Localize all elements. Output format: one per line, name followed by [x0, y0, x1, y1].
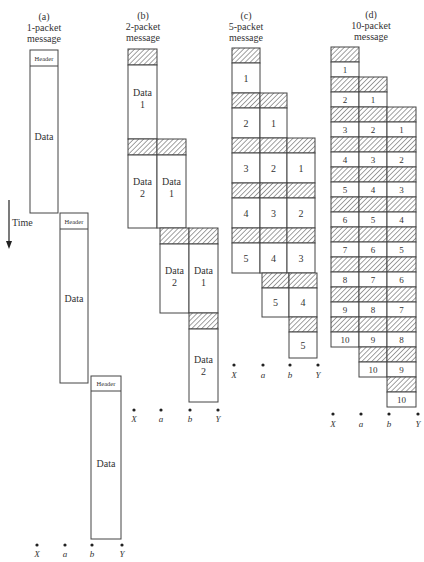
panel-a-title-line2: message — [27, 33, 61, 44]
packet-label: 10 — [369, 365, 379, 375]
packet-label: 8 — [371, 305, 376, 315]
node-y: Y — [415, 419, 421, 429]
packet-label: 9 — [371, 335, 376, 345]
node-b: b — [387, 419, 392, 429]
packet-label: 5 — [399, 245, 404, 255]
node-b: b — [288, 370, 293, 380]
packet-label: 7 — [399, 305, 404, 315]
packet-label: 2 — [343, 95, 348, 105]
node-a: a — [159, 414, 164, 424]
panel-c-nodes: X a b Y — [230, 363, 321, 380]
packet-label: 6 — [371, 245, 376, 255]
panel-a-title-line1: 1-packet — [27, 22, 62, 33]
time-axis: Time — [6, 200, 33, 249]
packet-label: 1 — [371, 95, 376, 105]
node-a: a — [63, 549, 68, 559]
packet-label: 4 — [399, 215, 404, 225]
data-1-label: Data — [162, 176, 181, 187]
packet-label: 3 — [399, 185, 404, 195]
store-and-forward-diagram: (a) 1-packet message Header Data Header … — [0, 0, 424, 562]
packet-label: 3 — [271, 208, 276, 219]
header-label-3: Header — [97, 380, 117, 387]
packet-label: 1 — [343, 65, 348, 75]
panel-d-title-line1: 10-packet — [351, 20, 391, 31]
packet-label: 5 — [343, 185, 348, 195]
packet-label: 3 — [371, 155, 376, 165]
packet-label: 6 — [343, 215, 348, 225]
node-a: a — [359, 419, 364, 429]
data-label-2: Data — [65, 293, 84, 304]
panel-b: (b) 2-packet message Data 1 Data 2 Data … — [126, 10, 222, 424]
panel-c: (c) 5-packet message 1 2 1 3 2 1 4 3 — [229, 10, 322, 380]
packet-label: 2 — [244, 118, 249, 129]
packet-label: 3 — [244, 163, 249, 174]
packet-label: 8 — [343, 275, 348, 285]
packet-label: 3 — [343, 125, 348, 135]
panel-b-title-line1: 2-packet — [126, 21, 161, 32]
packet-label: 9 — [399, 365, 404, 375]
data-2-label: Data — [165, 265, 184, 276]
node-y: Y — [215, 414, 221, 424]
packet-label: 1 — [299, 163, 304, 174]
data-2-label: Data — [194, 354, 213, 365]
header-label-2: Header — [65, 218, 85, 225]
panel-d-nodes: X a b Y — [329, 412, 421, 429]
packet-label: 9 — [343, 305, 348, 315]
data-1-num: 1 — [140, 99, 145, 110]
packet-label: 1 — [271, 118, 276, 129]
data-1-label: Data — [194, 265, 213, 276]
header-label-1: Header — [35, 55, 55, 62]
packet-label: 5 — [301, 340, 306, 351]
time-label: Time — [12, 217, 33, 228]
packet-label: 1 — [399, 125, 404, 135]
packet-label: 4 — [244, 208, 249, 219]
node-b: b — [90, 549, 95, 559]
packet-label: 5 — [244, 253, 249, 264]
packet-label: 4 — [343, 155, 348, 165]
node-a: a — [261, 370, 266, 380]
packet-label: 4 — [301, 297, 306, 308]
panel-d: (d) 10-packet message 1 2 1 3 2 1 4 3 2 — [329, 9, 421, 429]
data-1-label: Data — [133, 87, 152, 98]
packet-label: 2 — [299, 208, 304, 219]
data-2-num: 2 — [140, 188, 145, 199]
panel-b-title-line2: message — [126, 32, 160, 43]
packet-label: 10 — [341, 335, 351, 345]
node-x: X — [130, 414, 137, 424]
packet-label: 2 — [271, 163, 276, 174]
packet-label: 5 — [273, 297, 278, 308]
data-label-1: Data — [35, 131, 54, 142]
node-x: X — [33, 549, 40, 559]
node-x: X — [329, 419, 336, 429]
data-1-num: 1 — [201, 277, 206, 288]
panel-c-title-line2: message — [229, 32, 263, 43]
packet-label: 8 — [399, 335, 404, 345]
packet-label: 5 — [371, 215, 376, 225]
panel-c-title-line1: 5-packet — [229, 21, 264, 32]
panel-a-nodes: X a b Y — [33, 543, 125, 559]
packet-label: 6 — [399, 275, 404, 285]
packet-label: 3 — [299, 253, 304, 264]
packet-label: 4 — [271, 253, 276, 264]
node-b: b — [188, 414, 193, 424]
panel-d-title-line2: message — [354, 31, 388, 42]
packet-label: 4 — [371, 185, 376, 195]
packet-label: 1 — [244, 73, 249, 84]
node-y: Y — [119, 549, 125, 559]
packet-label: 2 — [399, 155, 404, 165]
data-2-label: Data — [133, 176, 152, 187]
data-1-num: 1 — [169, 188, 174, 199]
data-2-num: 2 — [172, 277, 177, 288]
data-2-num: 2 — [201, 366, 206, 377]
data-label-3: Data — [97, 458, 116, 469]
packet-label: 10 — [397, 395, 407, 405]
node-x: X — [230, 370, 237, 380]
node-y: Y — [315, 370, 321, 380]
panel-b-nodes: X a b Y — [130, 408, 221, 424]
packet-label: 2 — [371, 125, 376, 135]
packet-label: 7 — [371, 275, 376, 285]
panel-a: (a) 1-packet message Header Data Header … — [27, 11, 126, 559]
arrow-down-icon — [6, 241, 12, 249]
packet-label: 7 — [343, 245, 348, 255]
